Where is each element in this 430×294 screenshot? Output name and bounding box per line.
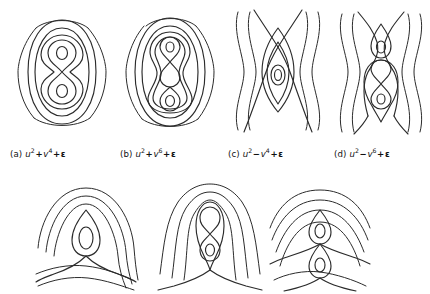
caption-c-exp1: 2 xyxy=(248,147,252,154)
contour-inner-oval-bottom xyxy=(166,96,175,107)
caption-c-tail: + xyxy=(270,149,277,159)
caption-b-operator: + xyxy=(146,149,153,159)
contour-arch-inner xyxy=(184,200,236,280)
caption-c: (c)u2−v4+ε xyxy=(228,149,283,159)
caption-c-label: (c) xyxy=(228,149,240,159)
contour-cross-left-lower xyxy=(284,278,320,291)
contour-lens-inner xyxy=(267,42,289,104)
contour-body xyxy=(196,202,224,270)
contour-wave-right-outer xyxy=(312,12,320,130)
contour-outer-arc-bottom xyxy=(142,119,198,127)
contour-wave-right-inner xyxy=(300,12,308,130)
contour-arch-mid xyxy=(46,196,132,284)
caption-d-label: (d) xyxy=(334,149,346,159)
contour-cross-upper-right xyxy=(384,12,404,116)
contour-cross-ne-sw xyxy=(244,10,302,132)
contour-inner-oval-center xyxy=(79,227,93,249)
contour-teardrop-upper xyxy=(309,210,331,244)
contour-wave-right-inner xyxy=(402,14,410,132)
caption-a-exp2: 4 xyxy=(48,147,52,154)
contour-wave-left-outer xyxy=(236,12,244,130)
contour-cross-lower-right xyxy=(394,116,408,134)
contour-panel-g xyxy=(270,176,374,292)
contour-inner-oval-core xyxy=(275,70,282,81)
caption-c-operator: − xyxy=(253,149,260,159)
caption-d-epsilon: ε xyxy=(385,149,390,159)
caption-b-exp2: 6 xyxy=(159,147,163,154)
contour-arch-mid xyxy=(172,192,248,278)
contour-inner-oval-lower xyxy=(315,258,325,272)
contour-lemniscate-upper xyxy=(160,37,180,87)
contour-inner-oval-lower xyxy=(57,85,68,98)
contour-lemniscate-lower xyxy=(160,87,180,111)
contour-lower-wave xyxy=(274,271,366,286)
contour-inner-oval-upper xyxy=(315,224,325,238)
contour-lemniscate xyxy=(48,40,76,104)
caption-d-operator: − xyxy=(360,149,367,159)
caption-a: (a)u2+v4+ε xyxy=(10,149,66,159)
caption-a-epsilon: ε xyxy=(61,149,66,159)
contour-wave-right-outer xyxy=(414,14,422,132)
contour-panel-b xyxy=(120,6,220,136)
contour-oval-1 xyxy=(135,18,205,126)
caption-a-operator: + xyxy=(35,149,42,159)
caption-d-exp2: 6 xyxy=(373,147,377,154)
caption-d: (d)u2−v6+ε xyxy=(334,149,390,159)
contour-pear xyxy=(148,32,192,113)
contour-cross-left xyxy=(36,256,86,282)
contour-wave-left-inner xyxy=(248,12,256,130)
contour-arch-2 xyxy=(272,200,368,240)
caption-d-exp1: 2 xyxy=(355,147,359,154)
contour-inner-oval-upper xyxy=(57,47,68,60)
contour-panel-d xyxy=(334,6,428,136)
caption-a-label: (a) xyxy=(10,149,22,159)
contour-arch-3 xyxy=(276,210,364,252)
contour-panel-a xyxy=(12,6,112,136)
caption-b-tail: + xyxy=(163,149,170,159)
caption-b-label: (b) xyxy=(120,149,132,159)
caption-c-epsilon: ε xyxy=(278,149,283,159)
contour-oval-2 xyxy=(142,26,198,118)
caption-b: (b)u2+v6+ε xyxy=(120,149,176,159)
caption-b-epsilon: ε xyxy=(171,149,176,159)
contour-cross-right-lower xyxy=(320,278,356,291)
contour-inner-oval-mid xyxy=(271,65,285,85)
contour-inner-oval-top xyxy=(166,42,174,52)
caption-d-tail: + xyxy=(377,149,384,159)
contour-lemniscate-lower xyxy=(371,60,391,109)
caption-a-tail: + xyxy=(53,149,60,159)
figure-canvas: (a)u2+v4+ε (b)u2+v6+ε (c)u2−v4+ε (d)u2−v… xyxy=(0,0,430,294)
contour-lower-wave-2 xyxy=(38,277,134,290)
contour-panel-f xyxy=(158,176,262,292)
contour-pear-inner xyxy=(153,37,187,109)
contour-cross-upper-left xyxy=(358,12,378,116)
contour-wave-left-inner xyxy=(352,14,360,132)
contour-panel-c xyxy=(228,6,328,136)
contour-panel-e xyxy=(36,176,140,292)
caption-b-exp1: 2 xyxy=(141,147,145,154)
contour-inner-oval xyxy=(206,244,215,256)
contour-inner-oval-lower xyxy=(377,94,385,104)
contour-cross-lower-left xyxy=(354,116,368,134)
contour-cross-nw-se xyxy=(254,10,312,132)
contour-wave-left-outer xyxy=(340,14,348,132)
